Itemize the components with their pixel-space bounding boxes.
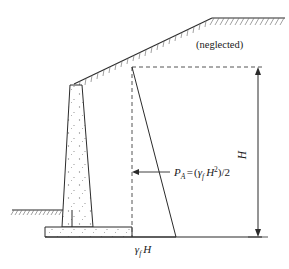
- wall-footing: [45, 227, 132, 237]
- svg-text:PA=(γfH2)/2: PA=(γfH2)/2: [173, 165, 230, 181]
- backfill-slope-surface: [74, 18, 212, 88]
- svg-text:γfH: γfH: [135, 243, 152, 258]
- upper-ground-hatch: [210, 18, 284, 25]
- upper-ground-surface: [210, 18, 285, 25]
- formula-equals: =: [187, 166, 193, 178]
- backfill-slope-line: [74, 18, 212, 84]
- formula-gamma-subscript: f: [202, 172, 205, 181]
- height-dimension-arrow-top: [255, 67, 261, 75]
- height-dimension: [248, 67, 268, 237]
- height-dimension-arrow-bottom: [255, 229, 261, 237]
- base-pressure-label: γfH: [135, 243, 152, 258]
- backfill-slope-hatch: [79, 21, 206, 88]
- wall-stem: [62, 85, 93, 227]
- retaining-wall-figure-container: (neglected) PA=(γfH2)/2 γfH H: [0, 0, 289, 269]
- concrete-retaining-wall: [45, 85, 132, 237]
- pressure-resultant-leader: [132, 169, 170, 175]
- retaining-wall-diagram: (neglected) PA=(γfH2)/2 γfH H: [0, 0, 289, 269]
- height-dimension-label: H: [236, 150, 248, 160]
- pressure-distribution-hypotenuse: [132, 67, 176, 237]
- pressure-formula-label: PA=(γfH2)/2: [173, 165, 230, 181]
- base-height-symbol: H: [142, 243, 152, 255]
- pressure-leader-arrowhead: [132, 169, 139, 175]
- formula-close-paren-divide: )/2: [218, 166, 230, 179]
- neglected-label: (neglected): [196, 39, 244, 51]
- lower-ground-hatch: [11, 210, 70, 215]
- base-gamma-subscript: f: [139, 249, 142, 258]
- formula-p-subscript: A: [180, 172, 186, 181]
- active-pressure-triangle: [132, 67, 176, 237]
